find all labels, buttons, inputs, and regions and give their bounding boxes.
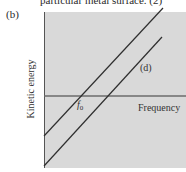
line-d-label: (d): [140, 62, 152, 74]
plot-background: [44, 12, 186, 168]
y-axis-label: Kinetic energy: [25, 60, 36, 119]
x-axis-label: Frequency: [138, 102, 180, 113]
